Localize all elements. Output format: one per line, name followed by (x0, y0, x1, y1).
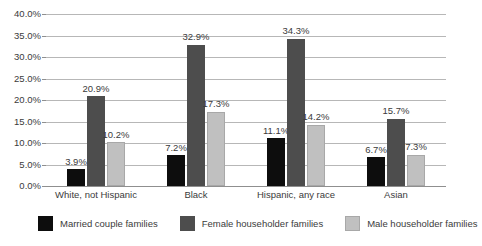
bar[interactable] (167, 155, 185, 186)
bar-value-label: 7.2% (165, 143, 187, 153)
category-axis-label: Asian (346, 189, 446, 200)
y-axis-tick-label: 0.0% (19, 181, 41, 191)
category-axis-label: Black (146, 189, 246, 200)
bar-slot: 6.7% (367, 14, 385, 186)
y-axis-tick-label: 15.0% (14, 117, 41, 127)
category-axis-label: Hispanic, any race (246, 189, 346, 200)
gridline (46, 186, 446, 187)
bar[interactable] (307, 125, 325, 186)
bar[interactable] (207, 112, 225, 186)
bar-value-label: 15.7% (383, 106, 410, 116)
bar-value-label: 7.3% (405, 142, 427, 152)
bar[interactable] (87, 96, 105, 186)
bar-slot: 11.1% (267, 14, 285, 186)
bar-slot: 14.2% (307, 14, 325, 186)
legend-entry[interactable]: Female householder families (180, 216, 323, 231)
y-axis-tick-label: 5.0% (19, 160, 41, 170)
bar-groups: 3.9%20.9%10.2%7.2%32.9%17.3%11.1%34.3%14… (46, 14, 446, 186)
bar-value-label: 34.3% (283, 26, 310, 36)
bar[interactable] (107, 142, 125, 186)
category-axis: White, not HispanicBlackHispanic, any ra… (46, 189, 446, 200)
bar[interactable] (387, 119, 405, 187)
legend-entry[interactable]: Married couple families (38, 216, 158, 231)
bar-slot: 15.7% (387, 14, 405, 186)
legend-swatch-icon (38, 216, 53, 231)
bar-value-label: 10.2% (103, 130, 130, 140)
bar[interactable] (407, 155, 425, 186)
legend-label: Married couple families (60, 218, 158, 229)
bar-group: 6.7%15.7%7.3% (346, 14, 446, 186)
y-axis-tick-label: 35.0% (14, 31, 41, 41)
bar-slot: 3.9% (67, 14, 85, 186)
plot-area: 0.0%5.0%10.0%15.0%20.0%25.0%30.0%35.0%40… (46, 14, 446, 186)
category-axis-label: White, not Hispanic (46, 189, 146, 200)
y-axis-tick-mark (42, 186, 46, 187)
bar-slot: 17.3% (207, 14, 225, 186)
legend-entry[interactable]: Male householder families (345, 216, 477, 231)
legend-swatch-icon (345, 216, 360, 231)
chart-legend: Married couple familiesFemale householde… (38, 216, 482, 231)
bar[interactable] (187, 45, 205, 186)
bar[interactable] (267, 138, 285, 186)
y-axis-tick-label: 20.0% (14, 95, 41, 105)
bar-value-label: 14.2% (303, 112, 330, 122)
y-axis-tick-label: 30.0% (14, 52, 41, 62)
bar-value-label: 3.9% (65, 157, 87, 167)
y-axis-tick-label: 10.0% (14, 138, 41, 148)
bar[interactable] (67, 169, 85, 186)
legend-label: Male householder families (367, 218, 477, 229)
bar-value-label: 11.1% (263, 126, 289, 136)
bar-value-label: 20.9% (83, 84, 110, 94)
bar-group: 11.1%34.3%14.2% (246, 14, 346, 186)
legend-swatch-icon (180, 216, 195, 231)
bar-group: 3.9%20.9%10.2% (46, 14, 146, 186)
bar-slot: 10.2% (107, 14, 125, 186)
y-axis-tick-label: 40.0% (14, 9, 41, 19)
bar-slot: 34.3% (287, 14, 305, 186)
legend-label: Female householder families (202, 218, 323, 229)
bar-slot: 20.9% (87, 14, 105, 186)
y-axis-tick-label: 25.0% (14, 74, 41, 84)
bar-slot: 7.3% (407, 14, 425, 186)
bar-group: 7.2%32.9%17.3% (146, 14, 246, 186)
bar-value-label: 17.3% (203, 99, 230, 109)
bar-value-label: 32.9% (183, 32, 210, 42)
bar[interactable] (367, 157, 385, 186)
bar-value-label: 6.7% (365, 145, 387, 155)
